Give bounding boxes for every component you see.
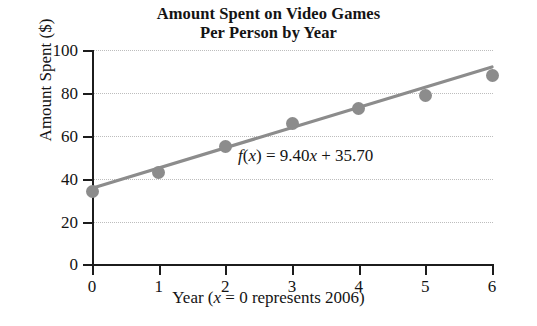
- data-point: [352, 102, 365, 115]
- equation-annotation: f(x) = 9.40x + 35.70: [238, 146, 373, 166]
- x-axis-title-suffix: = 0 represents 2006): [221, 288, 365, 307]
- equation-tail: + 35.70: [317, 146, 373, 165]
- equation-variable: x: [248, 146, 256, 165]
- equation-rest: = 9.40: [262, 146, 310, 165]
- y-tick-label-40: 40: [61, 171, 78, 188]
- chart-figure: Amount Spent on Video Games Per Person b…: [0, 0, 537, 326]
- data-point: [286, 117, 299, 130]
- x-axis-title-variable: x: [214, 288, 222, 307]
- x-axis-title: Year (x = 0 represents 2006): [0, 288, 537, 308]
- chart-title: Amount Spent on Video Games Per Person b…: [0, 4, 537, 42]
- data-point: [86, 185, 99, 198]
- y-axis-title: Amount Spent ($): [36, 0, 56, 190]
- y-tick-label-100: 100: [53, 42, 79, 59]
- y-tick-label-20: 20: [61, 214, 78, 231]
- data-point: [219, 140, 232, 153]
- y-tick-label-60: 60: [61, 128, 78, 145]
- data-point: [486, 69, 499, 82]
- data-point: [419, 89, 432, 102]
- y-tick-label-80: 80: [61, 85, 78, 102]
- chart-title-line-1: Amount Spent on Video Games: [0, 4, 537, 23]
- equation-variable-2: x: [309, 146, 317, 165]
- x-tick-6: [492, 264, 494, 275]
- chart-title-line-2: Per Person by Year: [0, 23, 537, 42]
- x-axis-title-prefix: Year (: [172, 288, 213, 307]
- y-tick-label-0: 0: [70, 256, 79, 273]
- page-bleed-text: [18, 316, 418, 326]
